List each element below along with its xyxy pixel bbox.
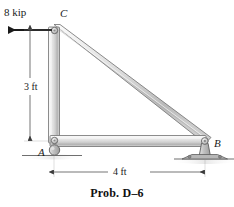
figure-container: 8 kip C A B 3 ft 4 ft Prob. D–6 — [0, 0, 234, 207]
member-ab — [50, 136, 206, 147]
dimension-label-3ft: 3 ft — [24, 82, 38, 92]
figure-caption: Prob. D–6 — [0, 186, 234, 201]
member-cb — [54, 25, 211, 144]
joint-pin-c — [51, 27, 57, 33]
ground-line-a — [22, 154, 82, 159]
joint-label-a: A — [38, 147, 45, 158]
load-label-8kip: 8 kip — [4, 7, 26, 18]
member-ac — [49, 27, 60, 143]
joint-label-c: C — [60, 8, 67, 19]
joint-label-b: B — [214, 138, 221, 149]
dimension-label-4ft: 4 ft — [113, 167, 127, 177]
